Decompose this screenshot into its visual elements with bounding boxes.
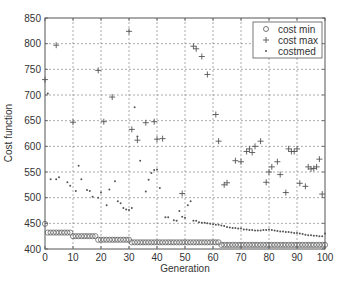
- data-point: [190, 43, 196, 49]
- data-point: [291, 148, 297, 154]
- data-point: [304, 234, 306, 236]
- data-point: [246, 228, 248, 230]
- data-point: [195, 220, 197, 222]
- data-point: [134, 137, 140, 143]
- legend-label-cost-min: cost min: [278, 24, 315, 35]
- x-tick-label: 90: [291, 252, 303, 263]
- data-point: [286, 146, 292, 152]
- x-tick-label: 80: [263, 252, 275, 263]
- y-tick-label: 500: [24, 192, 41, 203]
- data-point: [243, 228, 245, 230]
- data-point: [117, 200, 119, 202]
- data-point: [86, 189, 88, 191]
- data-point: [279, 231, 281, 233]
- x-tick-label: 10: [67, 252, 79, 263]
- data-point: [311, 165, 317, 171]
- data-point: [299, 233, 301, 235]
- data-point: [229, 226, 231, 228]
- data-point: [313, 235, 315, 237]
- data-point: [193, 46, 199, 52]
- data-point: [274, 159, 280, 165]
- y-tick-label: 550: [24, 167, 41, 178]
- data-point: [321, 235, 323, 237]
- data-point: [134, 106, 136, 108]
- data-point: [58, 176, 60, 178]
- data-point: [232, 158, 238, 164]
- data-point: [154, 136, 160, 142]
- data-point: [125, 208, 127, 210]
- data-point: [69, 185, 71, 187]
- data-point: [184, 217, 186, 219]
- data-point: [319, 191, 325, 197]
- data-point: [244, 148, 250, 154]
- data-point: [129, 126, 135, 132]
- data-point: [95, 67, 101, 73]
- data-point: [260, 230, 262, 232]
- data-point: [164, 216, 166, 218]
- legend: cost min cost max costmed: [253, 22, 322, 58]
- data-point: [249, 149, 255, 155]
- x-tick-label: 50: [179, 252, 191, 263]
- data-point: [100, 192, 102, 194]
- data-point: [232, 227, 234, 229]
- x-tick-label: 0: [42, 252, 48, 263]
- data-point: [302, 183, 308, 189]
- data-point: [271, 229, 273, 231]
- x-axis-label: Generation: [160, 263, 209, 274]
- data-point: [192, 220, 194, 222]
- data-point: [160, 136, 166, 142]
- data-point: [150, 172, 152, 174]
- data-point: [126, 28, 132, 34]
- data-point: [204, 71, 210, 77]
- data-point: [254, 230, 256, 232]
- data-point: [187, 204, 189, 206]
- legend-label-cost-max: cost max: [278, 35, 318, 46]
- data-point: [218, 224, 220, 226]
- data-point: [316, 235, 318, 237]
- data-point: [190, 200, 192, 202]
- data-point: [266, 169, 272, 175]
- data-point: [198, 221, 200, 223]
- data-point: [293, 232, 295, 234]
- data-point: [66, 181, 68, 183]
- data-point: [294, 146, 300, 152]
- legend-label-costmed: costmed: [278, 46, 316, 57]
- data-point: [97, 197, 99, 199]
- data-point: [314, 164, 320, 170]
- data-point: [318, 235, 320, 237]
- data-point: [199, 54, 205, 60]
- data-point: [216, 138, 222, 144]
- data-point: [80, 178, 82, 180]
- x-tick-label: 40: [151, 252, 163, 263]
- data-point: [215, 224, 217, 226]
- data-point: [316, 156, 322, 162]
- data-point: [53, 42, 59, 48]
- y-tick-label: 750: [24, 64, 41, 75]
- data-point: [277, 172, 283, 178]
- data-point: [285, 231, 287, 233]
- data-point: [262, 229, 264, 231]
- data-point: [108, 188, 110, 190]
- data-point: [206, 222, 208, 224]
- data-point: [251, 229, 253, 231]
- data-point: [114, 180, 116, 182]
- x-tick-label: 100: [317, 252, 334, 263]
- data-point: [276, 230, 278, 232]
- y-axis-label: Cost function: [3, 104, 14, 162]
- y-tick-label: 850: [24, 13, 41, 24]
- data-point: [78, 165, 80, 167]
- chart: 400450500550600650700750800850 010203040…: [0, 0, 346, 285]
- data-point: [128, 209, 130, 211]
- data-point: [237, 227, 239, 229]
- data-point: [252, 143, 258, 149]
- data-point: [265, 229, 267, 231]
- data-point: [179, 191, 185, 197]
- data-point: [223, 225, 225, 227]
- data-point: [283, 190, 289, 196]
- data-point: [143, 120, 149, 126]
- data-point: [75, 190, 77, 192]
- data-point: [213, 112, 219, 118]
- data-point: [288, 231, 290, 233]
- data-point: [246, 146, 252, 152]
- y-tick-label: 400: [24, 244, 41, 255]
